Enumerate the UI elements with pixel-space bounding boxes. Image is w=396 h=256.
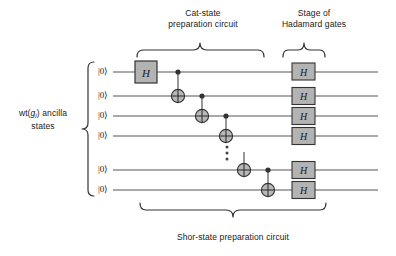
brace-cat-state <box>137 43 264 57</box>
svg-text:H: H <box>299 131 308 142</box>
hadamard-gate-w0[interactable]: H <box>292 63 315 80</box>
ket-label-wire-3: |0⟩ <box>98 131 108 140</box>
brace-shor-state <box>140 203 326 217</box>
hadamard-gate-initial-label: H <box>141 67 151 79</box>
ket-label-wire-2: |0⟩ <box>98 111 108 120</box>
hadamard-gate-w4[interactable]: H <box>292 162 315 179</box>
ket-label-wire-4: |0⟩ <box>98 165 108 174</box>
svg-text:H: H <box>299 185 308 196</box>
hadamard-gate-w2[interactable]: H <box>292 108 315 125</box>
control-dot-2 <box>223 113 228 118</box>
cnot-targets <box>171 89 274 196</box>
caption-ancilla-line2: states <box>4 121 82 132</box>
control-dot-1 <box>199 93 204 98</box>
brace-stage-hadamard <box>283 43 325 57</box>
cnot-target-4 <box>261 183 274 196</box>
caption-stage-hadamard-line2: Hadamard gates <box>258 19 370 30</box>
caption-stage-hadamard-line1: Stage of <box>258 8 370 19</box>
hadamard-stage-gates: H H H H H H <box>292 63 315 199</box>
cnot-target-2 <box>219 129 232 142</box>
hadamard-gate-w3[interactable]: H <box>292 128 315 145</box>
svg-text:H: H <box>299 91 308 102</box>
vertical-ellipsis-icon <box>226 146 229 161</box>
cnot-target-3 <box>237 163 250 176</box>
caption-shor-state: Shor-state preparation circuit <box>135 232 331 243</box>
cnot-control-dots <box>175 69 270 172</box>
control-dot-0 <box>175 69 180 74</box>
ket-label-wire-1: |0⟩ <box>98 91 108 100</box>
cnot-target-1 <box>195 109 208 122</box>
cnot-target-0 <box>171 89 184 102</box>
svg-text:H: H <box>299 67 308 78</box>
caption-stage-hadamard: Stage of Hadamard gates <box>258 8 370 29</box>
ancilla-suffix: ) ancilla <box>37 108 67 118</box>
ancilla-prefix: wt( <box>19 108 31 118</box>
svg-text:H: H <box>299 111 308 122</box>
control-dot-4 <box>265 167 270 172</box>
ket-label-wire-5: |0⟩ <box>98 185 108 194</box>
braces <box>82 43 326 217</box>
caption-ancilla-states: wt(gj) ancilla states <box>4 108 82 131</box>
caption-cat-state-line2: preparation circuit <box>143 19 263 30</box>
svg-text:H: H <box>299 165 308 176</box>
quantum-circuit-figure: H H H H H H <box>0 0 396 256</box>
caption-cat-state-line1: Cat-state <box>143 8 263 19</box>
caption-cat-state: Cat-state preparation circuit <box>143 8 263 29</box>
ket-label-wire-0: |0⟩ <box>98 67 108 76</box>
brace-ancilla <box>82 62 94 196</box>
hadamard-gate-initial[interactable]: H <box>135 61 157 83</box>
hadamard-gate-w5[interactable]: H <box>292 182 315 199</box>
hadamard-gate-w1[interactable]: H <box>292 88 315 105</box>
caption-ancilla-line1: wt(gj) ancilla <box>4 108 82 121</box>
